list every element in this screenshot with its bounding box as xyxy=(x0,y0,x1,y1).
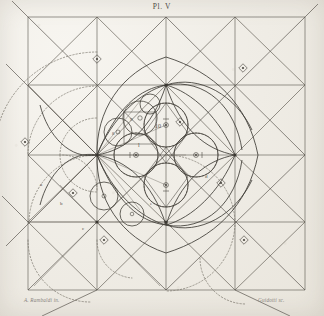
credit-engraver: Guidotti sc. xyxy=(258,297,285,303)
through-diagonals xyxy=(2,1,318,316)
geometric-figure: 10 l 9 8 a b c d e xyxy=(0,0,324,316)
label-e: e xyxy=(150,201,153,206)
plate-sheet: 10 l 9 8 a b c d e Pl. V A. Rambaldi in.… xyxy=(0,0,324,316)
label-d: d xyxy=(205,174,208,179)
dotted-arcs xyxy=(0,52,246,304)
label-10: 10 xyxy=(155,123,161,129)
label-b: b xyxy=(60,201,63,206)
label-c: c xyxy=(82,226,85,231)
point-markers xyxy=(21,55,248,244)
label-9: 9 xyxy=(130,117,133,122)
construction-rays xyxy=(28,101,186,286)
plate-title: Pl. V xyxy=(0,2,324,11)
label-l: l xyxy=(138,142,140,148)
credit-draughtsman: A. Rambaldi in. xyxy=(24,297,60,303)
label-8: 8 xyxy=(112,131,115,136)
